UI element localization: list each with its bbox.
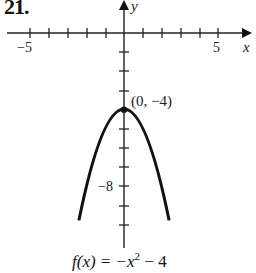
x-tick-label-neg5: −5 <box>17 40 32 55</box>
graph: −5 5 x y −8 (0, −4) <box>0 0 256 273</box>
y-axis-label: y <box>129 0 138 14</box>
caption-suffix: − 4 <box>140 252 167 271</box>
vertex-label: (0, −4) <box>131 93 172 110</box>
x-axis-label: x <box>242 39 250 55</box>
caption-prefix: f(x) = −x <box>72 252 135 271</box>
x-tick-label-5: 5 <box>213 40 220 55</box>
function-caption: f(x) = −x2 − 4 <box>72 250 167 272</box>
y-axis-arrow-icon <box>119 0 129 10</box>
vertex-point <box>121 107 127 113</box>
x-axis-arrow-icon <box>242 28 252 38</box>
y-tick-label-neg8: −8 <box>98 179 113 194</box>
